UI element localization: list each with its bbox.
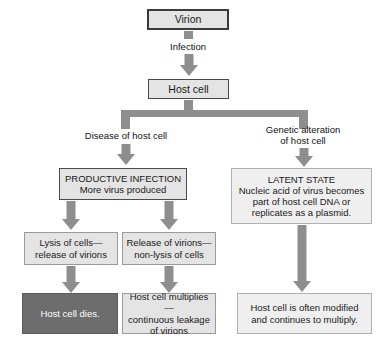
node-host-cell-modified: Host cell is often modified and continue…: [237, 293, 372, 334]
node-host-cell: Host cell: [148, 79, 229, 99]
arrow-productive-to-release: [159, 201, 178, 231]
arrow-genetic-alteration-to-latent-state: [294, 148, 313, 170]
edge-label-infection: Infection: [148, 41, 228, 52]
arrow-productive-to-lysis: [61, 201, 80, 231]
arrow-release-to-host-cell-multiplies: [159, 266, 178, 294]
node-virion-label: Virion: [172, 13, 205, 25]
node-latent-state-label: LATENT STATE Nucleic acid of virus becom…: [236, 174, 368, 219]
edge-label-genetic-alteration: Genetic alteration of host cell: [243, 124, 363, 146]
node-lysis-of-cells-label: Lysis of cells— release of virions: [32, 237, 110, 259]
node-virion: Virion: [147, 9, 229, 30]
edge-label-disease-of-host-cell: Disease of host cell: [66, 130, 186, 141]
node-productive-infection-label: PRODUCTIVE INFECTION More virus produced: [62, 173, 184, 195]
flowchart-canvas: Virion Infection Host cell Disease of ho…: [0, 0, 378, 349]
node-latent-state: LATENT STATE Nucleic acid of virus becom…: [231, 168, 372, 224]
arrow-disease-to-productive-infection: [116, 144, 135, 166]
node-release-of-virions: Release of virions— non-lysis of cells: [122, 232, 216, 265]
connector-virion-stub: [184, 31, 193, 39]
node-host-cell-label: Host cell: [165, 83, 211, 95]
arrow-latent-state-to-host-cell-modified: [292, 225, 311, 293]
node-host-cell-multiplies: Host cell multiplies— continuous leakage…: [122, 293, 216, 334]
node-host-cell-dies: Host cell dies.: [22, 293, 118, 334]
node-productive-infection: PRODUCTIVE INFECTION More virus produced: [59, 168, 187, 200]
node-lysis-of-cells: Lysis of cells— release of virions: [24, 232, 118, 265]
connector-split-left-drop: [121, 116, 130, 129]
arrow-infection-to-host-cell: [179, 54, 198, 76]
node-host-cell-multiplies-label: Host cell multiplies— continuous leakage…: [123, 291, 215, 336]
arrow-lysis-to-host-cell-dies: [61, 266, 80, 294]
node-host-cell-modified-label: Host cell is often modified and continue…: [247, 302, 361, 324]
node-host-cell-dies-label: Host cell dies.: [37, 308, 102, 319]
connector-split-bar: [121, 110, 308, 117]
node-release-of-virions-label: Release of virions— non-lysis of cells: [123, 237, 214, 259]
